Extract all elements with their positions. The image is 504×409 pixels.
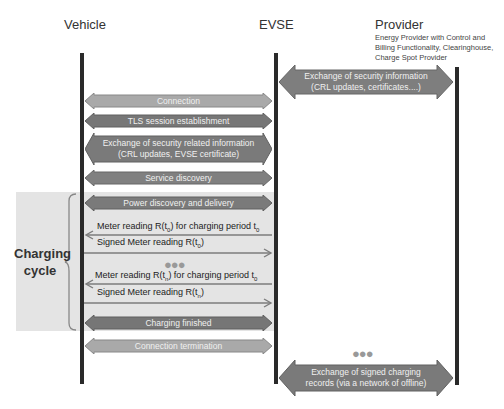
provider-security-exchange-arrow: Exchange of security information(CRL upd…	[279, 65, 453, 99]
provider-description: Energy Provider with Control and Billing…	[375, 33, 493, 63]
charging-cycle-label: Charging cycle	[14, 245, 66, 279]
power-discovery-arrow: Power discovery and delivery	[85, 195, 272, 211]
actor-vehicle: Vehicle	[64, 17, 106, 32]
signed-meter-reading-n-arrow	[84, 298, 274, 308]
connection-termination-arrow: Connection termination	[85, 338, 272, 354]
ellipsis-provider: ●●●	[352, 346, 373, 361]
signed-records-exchange-arrow: Exchange of signed chargingrecords (via …	[279, 360, 453, 396]
vehicle-lifeline	[80, 53, 84, 384]
actor-provider: Provider	[375, 17, 423, 32]
evse-lifeline	[274, 53, 278, 384]
provider-lifeline	[455, 67, 459, 385]
charging-finished-arrow: Charging finished	[85, 315, 272, 331]
connection-arrow: Connection	[85, 93, 272, 109]
security-related-exchange-arrow: Exchange of security related information…	[85, 133, 272, 165]
brace-icon	[64, 193, 78, 331]
actor-evse: EVSE	[259, 17, 294, 32]
tls-session-arrow: TLS session establishment	[85, 113, 272, 129]
service-discovery-arrow: Service discovery	[85, 170, 272, 186]
